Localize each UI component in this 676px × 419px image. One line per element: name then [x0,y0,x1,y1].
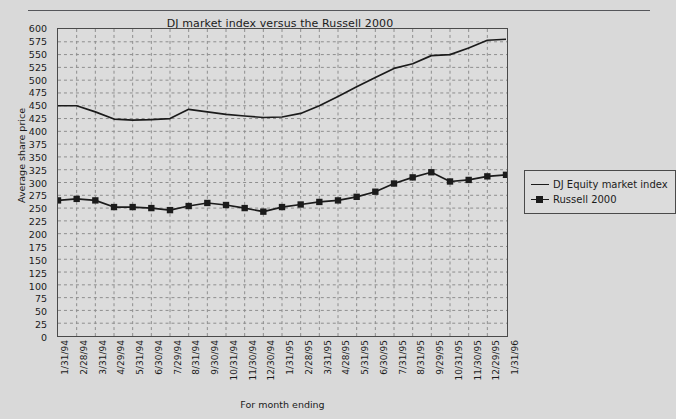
y-tick-label: 0 [0,333,52,342]
x-tick-label: 4/29/94 [117,340,126,375]
y-tick-label: 550 [0,49,52,58]
legend-item-label: DJ Equity market index [550,179,668,190]
x-tick-label: 12/30/94 [267,340,276,380]
x-tick-label: 8/31/95 [417,340,426,375]
y-tick-label: 575 [0,36,52,45]
x-tick-label: 3/31/95 [324,340,333,375]
y-tick-label: 500 [0,75,52,84]
x-tick-label: 11/30/95 [474,340,483,380]
y-tick-label: 200 [0,230,52,239]
y-axis-tick-labels: 0255075100125150175200225250275300325350… [0,28,52,337]
x-axis-title: For month ending [57,399,508,410]
y-tick-label: 25 [0,320,52,329]
data-point-marker [465,177,471,183]
x-tick-label: 8/31/94 [192,340,201,375]
data-point-marker [503,172,507,178]
y-tick-label: 150 [0,255,52,264]
y-tick-label: 300 [0,178,52,187]
y-tick-label: 75 [0,294,52,303]
x-tick-label: 7/31/95 [399,340,408,375]
x-tick-label: 3/31/94 [99,340,108,375]
data-point-marker [297,201,303,207]
data-point-marker [316,199,322,205]
y-tick-label: 350 [0,152,52,161]
y-tick-label: 600 [0,24,52,33]
data-point-marker [353,194,359,200]
x-tick-label: 9/29/95 [436,340,445,375]
x-axis-tick-labels: 1/31/942/28/943/31/944/29/945/31/946/30/… [57,340,508,396]
data-point-marker [279,204,285,210]
y-tick-label: 250 [0,204,52,213]
data-point-marker [391,180,397,186]
data-point-marker [372,189,378,195]
y-tick-label: 275 [0,191,52,200]
data-point-marker [129,204,135,210]
data-point-marker [167,207,173,213]
x-tick-label: 2/28/95 [305,340,314,375]
x-tick-label: 1/31/96 [511,340,520,375]
x-tick-label: 2/28/94 [80,340,89,375]
data-point-marker [447,178,453,184]
y-tick-label: 325 [0,165,52,174]
line-marker-key-icon [530,194,550,206]
x-tick-label: 9/30/94 [211,340,220,375]
y-tick-label: 450 [0,101,52,110]
legend-item-label: Russell 2000 [550,194,617,205]
y-tick-label: 400 [0,127,52,136]
y-tick-label: 50 [0,307,52,316]
data-point-marker [223,202,229,208]
x-tick-label: 12/29/95 [492,340,501,380]
x-tick-label: 5/31/94 [136,340,145,375]
y-tick-label: 125 [0,268,52,277]
y-tick-label: 175 [0,242,52,251]
y-tick-label: 425 [0,114,52,123]
series-lines [58,29,507,336]
x-tick-label: 7/29/94 [174,340,183,375]
data-point-marker [92,197,98,203]
data-point-marker [204,200,210,206]
x-tick-label: 1/31/94 [61,340,70,375]
legend-item[interactable]: Russell 2000 [530,192,668,207]
x-tick-label: 4/28/95 [342,340,351,375]
y-tick-label: 100 [0,281,52,290]
x-tick-label: 10/31/95 [455,340,464,380]
y-tick-label: 475 [0,88,52,97]
legend-item[interactable]: DJ Equity market index [530,177,668,192]
data-point-marker [111,204,117,210]
x-tick-label: 6/30/94 [155,340,164,375]
data-point-marker [484,173,490,179]
top-divider [28,10,650,11]
x-tick-label: 1/31/95 [286,340,295,375]
y-tick-label: 225 [0,217,52,226]
series-line-dj-equity-market-index [58,39,506,120]
plot-area [57,28,508,337]
data-point-marker [335,197,341,203]
y-tick-label: 375 [0,139,52,148]
data-point-marker [260,208,266,214]
data-point-marker [428,169,434,175]
data-point-marker [148,205,154,211]
x-tick-label: 11/30/94 [249,340,258,380]
data-point-marker [241,205,247,211]
data-point-marker [73,196,79,202]
x-tick-label: 6/30/95 [380,340,389,375]
x-tick-label: 5/31/95 [361,340,370,375]
line-key-icon [530,179,550,191]
y-tick-label: 525 [0,62,52,71]
data-point-marker [185,203,191,209]
x-tick-label: 10/31/94 [230,340,239,380]
data-point-marker [58,197,61,203]
chart-legend: DJ Equity market indexRussell 2000 [524,170,676,214]
data-point-marker [409,174,415,180]
